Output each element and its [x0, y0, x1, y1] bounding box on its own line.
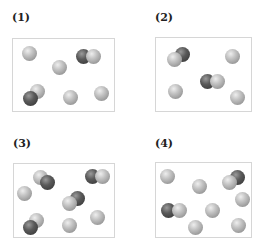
light-atom-icon — [86, 49, 101, 64]
light-atom-icon — [62, 196, 77, 211]
light-atom-icon — [235, 192, 250, 207]
light-atom-icon — [52, 60, 67, 75]
light-atom-icon — [22, 46, 37, 61]
light-atom-icon — [160, 169, 175, 184]
light-atom-icon — [95, 169, 110, 184]
light-atom-icon — [63, 90, 78, 105]
panel-label: (3) — [13, 138, 31, 149]
dark-atom-icon — [40, 175, 55, 190]
light-atom-icon — [192, 179, 207, 194]
light-atom-icon — [222, 175, 237, 190]
dark-atom-icon — [23, 91, 38, 106]
light-atom-icon — [167, 52, 182, 67]
light-atom-icon — [17, 186, 32, 201]
panel-label: (1) — [12, 12, 30, 23]
light-atom-icon — [210, 74, 225, 89]
light-atom-icon — [225, 49, 240, 64]
light-atom-icon — [231, 218, 246, 233]
light-atom-icon — [90, 210, 105, 225]
panel-label: (2) — [155, 12, 173, 23]
light-atom-icon — [188, 220, 203, 235]
panel-label: (4) — [155, 138, 173, 149]
light-atom-icon — [168, 84, 183, 99]
light-atom-icon — [230, 90, 245, 105]
light-atom-icon — [94, 86, 109, 101]
dark-atom-icon — [23, 220, 38, 235]
light-atom-icon — [172, 203, 187, 218]
light-atom-icon — [205, 203, 220, 218]
light-atom-icon — [62, 218, 77, 233]
